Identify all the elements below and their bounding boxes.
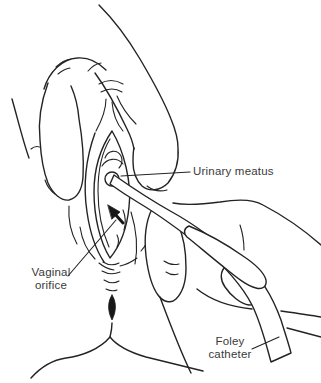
mons-fold-line	[117, 96, 136, 124]
vestibule-texture-line	[123, 210, 125, 230]
anus	[109, 295, 116, 320]
labium-texture-line	[80, 227, 95, 259]
vestibule-texture-line	[117, 235, 119, 247]
labium-right-fold	[131, 212, 136, 264]
gluteal-fold-left	[31, 337, 110, 378]
perineum-wrinkle	[103, 262, 119, 265]
perineum-wrinkle	[102, 271, 120, 274]
perineum-wrinkle	[104, 280, 119, 283]
thigh-lines	[281, 311, 321, 337]
illustration-canvas	[0, 0, 321, 383]
thigh-line	[281, 311, 321, 317]
left-hand	[12, 5, 178, 200]
foley-catheter-tube	[110, 175, 291, 362]
medical-illustration: Urinary meatus Vaginal orifice Foley cat…	[0, 0, 321, 383]
labium-texture-line	[120, 258, 137, 266]
perineum-wrinkle	[106, 289, 117, 291]
knuckle-wrinkle	[58, 68, 70, 74]
label-vaginal-orifice: Vaginal orifice	[20, 266, 82, 292]
gluteal-cleft-line	[110, 323, 112, 337]
labium-texture-line	[69, 206, 77, 244]
knuckle-crease	[240, 225, 244, 250]
label-foley-catheter: Foley catheter	[199, 335, 261, 361]
clitoral-hood-fold	[102, 159, 123, 166]
catheter-tube	[110, 175, 291, 362]
gluteal-fold-right	[110, 337, 203, 371]
mons-fold-line	[96, 99, 106, 131]
urinary-meatus-leader-line	[121, 172, 190, 176]
thigh-line	[287, 328, 321, 337]
mons-fold-line	[101, 89, 122, 92]
label-urinary-meatus: Urinary meatus	[193, 165, 274, 178]
index-finger-inner-edge	[95, 73, 134, 149]
background-finger-edge	[12, 99, 29, 158]
